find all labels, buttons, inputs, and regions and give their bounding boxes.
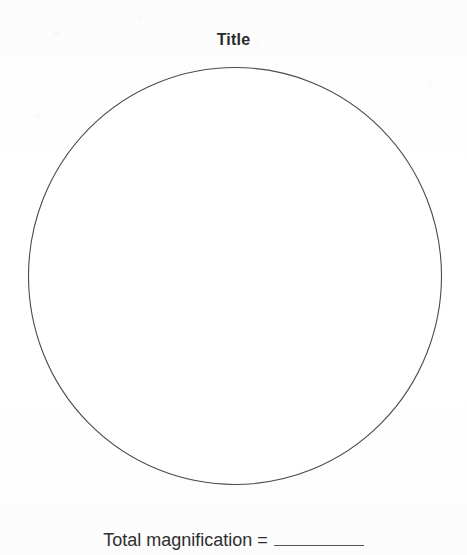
field-of-view-drawing-area[interactable]	[27, 66, 443, 486]
total-magnification-answer-blank[interactable]	[274, 527, 364, 546]
page-title: Title	[0, 30, 467, 50]
total-magnification-label: Total magnification =	[103, 529, 268, 551]
field-of-view-circle[interactable]	[29, 68, 442, 485]
caption-row: Total magnification =	[0, 527, 467, 551]
worksheet-page: Title Total magnification =	[0, 0, 467, 555]
